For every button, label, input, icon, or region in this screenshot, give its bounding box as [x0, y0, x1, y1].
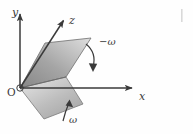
minus-omega-label: −ω	[99, 36, 116, 47]
z-axis-label: z	[68, 14, 75, 27]
figure-background	[0, 0, 193, 134]
omega-label: ω	[69, 114, 77, 125]
figure-container: y z x O −ω ω	[0, 0, 193, 134]
y-axis-label: y	[11, 6, 19, 19]
x-axis-label: x	[139, 90, 146, 103]
physics-diagram-canvas: y z x O −ω ω	[0, 0, 193, 134]
scan-artifact-mark	[181, 9, 183, 22]
origin-label: O	[7, 86, 16, 98]
